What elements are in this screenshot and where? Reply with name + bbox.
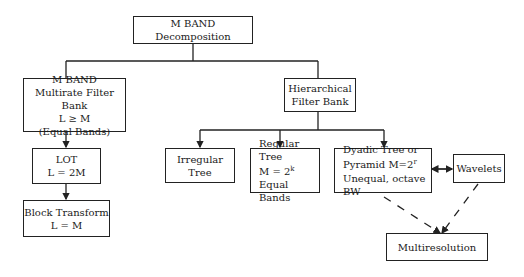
node-line: Unequal, octave BW bbox=[343, 172, 431, 198]
node-line: Block Transform bbox=[24, 206, 108, 219]
node-line: Hierarchical bbox=[288, 82, 351, 95]
node-label: M BAND Decomposition bbox=[134, 17, 252, 43]
node-line: Filter Bank bbox=[291, 95, 348, 108]
node-line: Regular Tree bbox=[259, 137, 319, 163]
node-lot: LOT L = 2M bbox=[32, 148, 101, 184]
diagram-canvas: M BAND Decomposition M BAND Multirate Fi… bbox=[0, 0, 524, 277]
node-line: Equal Bands bbox=[259, 178, 319, 204]
node-label: Multiresolution bbox=[398, 241, 476, 254]
node-line: L ≥ M bbox=[59, 112, 91, 125]
node-mband-multirate: M BAND Multirate Filter Bank L ≥ M (Equa… bbox=[23, 78, 126, 132]
node-label: Wavelets bbox=[456, 162, 501, 175]
node-line: Dyadic Tree or bbox=[343, 143, 418, 156]
node-line: L = M bbox=[51, 219, 83, 232]
node-dyadic-tree: Dyadic Tree or Pyramid M=2r Unequal, oct… bbox=[334, 148, 432, 193]
node-mband-decomposition: M BAND Decomposition bbox=[133, 16, 253, 44]
node-multiresolution: Multiresolution bbox=[386, 233, 488, 261]
node-label: Irregular Tree bbox=[166, 153, 234, 179]
node-block-transform: Block Transform L = M bbox=[23, 200, 110, 237]
node-line: (Equal Bands) bbox=[39, 125, 111, 138]
node-regular-tree: Regular Tree M = 2k Equal Bands bbox=[250, 148, 320, 193]
node-line: L = 2M bbox=[48, 166, 86, 179]
node-line: M BAND bbox=[52, 73, 97, 86]
node-line: Multirate Filter Bank bbox=[24, 86, 125, 112]
node-line: Pyramid M=2r bbox=[343, 156, 417, 171]
node-hierarchical: Hierarchical Filter Bank bbox=[284, 78, 356, 112]
node-line: M = 2k bbox=[259, 163, 295, 178]
node-irregular-tree: Irregular Tree bbox=[165, 148, 235, 183]
node-line: LOT bbox=[56, 153, 78, 166]
node-wavelets: Wavelets bbox=[453, 154, 505, 183]
